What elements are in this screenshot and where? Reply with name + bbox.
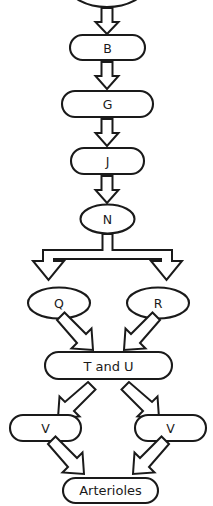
- node-b: B: [70, 35, 145, 60]
- flowchart-diagram: B G J N: [0, 0, 213, 506]
- arrow-v-right-to-arterioles: [133, 437, 169, 475]
- node-b-label: B: [103, 41, 112, 56]
- node-n: N: [81, 205, 135, 234]
- node-q-label: Q: [54, 296, 64, 311]
- node-j: J: [71, 148, 144, 174]
- arrow-top-to-b: [96, 8, 119, 34]
- arrow-tu-to-v-right: [122, 382, 160, 418]
- node-r-label: R: [154, 296, 163, 311]
- flowchart-canvas: B G J N: [0, 0, 213, 506]
- node-n-label: N: [103, 212, 112, 227]
- node-q: Q: [28, 288, 90, 319]
- node-g-label: G: [103, 97, 113, 112]
- arrow-q-to-tu: [57, 313, 93, 351]
- node-g: G: [62, 91, 153, 117]
- node-t-and-u: T and U: [45, 352, 172, 379]
- arrow-r-to-tu: [124, 313, 160, 351]
- node-v-left: V: [10, 415, 81, 441]
- arrow-tu-to-v-left: [58, 382, 96, 418]
- node-arterioles-label: Arterioles: [79, 483, 142, 498]
- node-v-left-label: V: [41, 421, 50, 436]
- arrow-b-to-g: [96, 62, 119, 89]
- node-t-and-u-label: T and U: [82, 359, 133, 374]
- node-r: R: [127, 288, 189, 319]
- node-v-right-label: V: [166, 421, 175, 436]
- node-arterioles: Arterioles: [63, 478, 158, 503]
- node-v-right: V: [135, 415, 206, 441]
- arrow-v-left-to-arterioles: [48, 437, 84, 475]
- node-j-label: J: [105, 154, 110, 169]
- arrow-j-to-n: [96, 176, 119, 203]
- arrow-g-to-j: [96, 119, 119, 146]
- arrow-split-n-to-q-r: [33, 234, 182, 280]
- node-top-cropped: [69, 0, 145, 7]
